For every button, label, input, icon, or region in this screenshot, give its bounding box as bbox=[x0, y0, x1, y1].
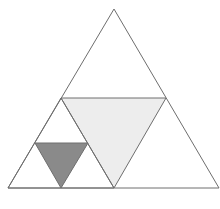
diagram-canvas: Equilateral triangle subdivided Sierpins… bbox=[0, 0, 220, 209]
sierpinski-diagram bbox=[0, 0, 220, 209]
